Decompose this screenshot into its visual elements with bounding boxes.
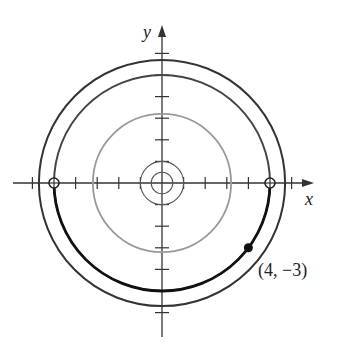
- filled-point-icon: [244, 243, 253, 252]
- x-axis-arrow-icon: [302, 179, 314, 187]
- y-axis-arrow-icon: [158, 25, 166, 37]
- polar-diagram: x y (4, −3): [0, 0, 341, 351]
- x-axis-label: x: [304, 189, 313, 209]
- point-label: (4, −3): [258, 260, 307, 281]
- y-axis-label: y: [141, 22, 151, 42]
